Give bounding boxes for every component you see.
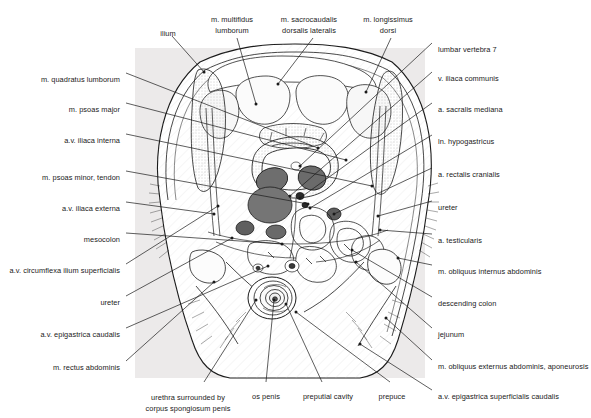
label-a-rectalis-cranialis: a. rectalis cranialis — [438, 170, 500, 181]
label-ln-hypogastricus: ln. hypogastricus — [438, 137, 494, 148]
label-a-testicularis: a. testicularis — [438, 236, 482, 247]
label-urethra-corpus-spongiosum-penis: urethra surrounded bycorpus spongiosum p… — [146, 392, 231, 414]
label-m-quadratus-lumborum: m. quadratus lumborum — [41, 75, 120, 86]
label-m-sacrocaudalis-dorsalis-lateralis: m. sacrocaudalisdorsalis lateralis — [281, 14, 337, 36]
label-m-multifidus-lumborum: m. multifiduslumborum — [211, 14, 253, 36]
label-av-epigastrica-superficialis-caudalis: a.v. epigastrica superficialis caudalis — [438, 392, 559, 403]
label-preputial-cavity: preputial cavity — [303, 392, 353, 403]
label-prepuce: prepuce — [378, 392, 405, 403]
label-ilium: ilium — [160, 29, 175, 40]
label-ureter-left: ureter — [100, 298, 120, 309]
label-m-obliquus-externus-abdominis-aponeurosis: m. obliquus externus abdominis, aponeuro… — [438, 362, 588, 373]
label-av-iliaca-interna: a.v. iliaca interna — [64, 136, 120, 147]
label-m-obliquus-internus-abdominis: m. obliquus internus abdominis — [438, 267, 541, 278]
label-a-sacralis-mediana: a. sacralis mediana — [438, 105, 503, 116]
label-jejunum: jejunum — [438, 330, 464, 341]
label-os-penis: os penis — [252, 392, 280, 403]
label-m-rectus-abdominis: m. rectus abdominis — [53, 363, 120, 374]
label-m-psoas-minor-tendon: m. psoas minor, tendon — [42, 173, 120, 184]
label-lumbar-vertebra-7: lumbar vertebra 7 — [438, 45, 497, 56]
label-ureter-right: ureter — [438, 203, 458, 214]
label-mesocolon: mesocolon — [84, 235, 120, 246]
anatomy-plate-page: iliumm. multifiduslumborumm. sacrocaudal… — [0, 0, 591, 418]
label-av-iliaca-externa: a.v. iliaca externa — [62, 204, 120, 215]
label-m-psoas-major: m. psoas major — [69, 105, 120, 116]
label-v-iliaca-communis: v. iliaca communis — [438, 74, 499, 85]
label-av-epigastrica-caudalis: a.v. epigastrica caudalis — [40, 330, 120, 341]
label-descending-colon: descending colon — [438, 299, 496, 310]
penis-cross-section — [248, 277, 296, 319]
label-m-longissimus-dorsi: m. longissimusdorsi — [363, 14, 413, 36]
label-av-circumflexa-ilium-superficialis: a.v. circumflexa ilium superficialis — [10, 266, 121, 277]
